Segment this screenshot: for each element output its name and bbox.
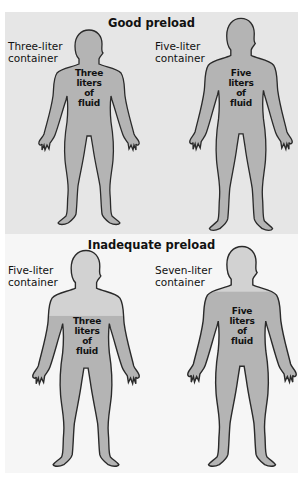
fluid-label-line: Five <box>221 68 261 78</box>
fluid-label-line: Five <box>222 306 262 316</box>
fluid-label-line: liters <box>221 78 261 88</box>
fluid-label-line: liters <box>69 78 109 88</box>
fluid-label: Five liters of fluid <box>221 68 261 108</box>
good-preload-panel: Good preload Three-liter container Three… <box>5 12 298 234</box>
fluid-label-line: of <box>67 336 107 346</box>
fluid-label-line: Three <box>67 316 107 326</box>
fluid-label: Three liters of fluid <box>69 68 109 108</box>
fluid-label-line: Three <box>69 68 109 78</box>
inadequate-preload-panel: Inadequate preload Five-liter container … <box>5 234 298 473</box>
five-liter-body-figure-partially-filled <box>33 246 139 468</box>
fluid-label-line: liters <box>222 316 262 326</box>
fluid-label-line: of <box>221 88 261 98</box>
seven-liter-body-figure-partially-filled <box>188 242 296 468</box>
fluid-label-line: fluid <box>222 336 262 346</box>
fluid-label-line: fluid <box>69 98 109 108</box>
fluid-label-line: fluid <box>221 98 261 108</box>
five-liter-body-figure <box>190 14 292 232</box>
fluid-label-line: fluid <box>67 346 107 356</box>
fluid-label: Three liters of fluid <box>67 316 107 356</box>
fluid-label: Five liters of fluid <box>222 306 262 346</box>
fluid-label-line: of <box>69 88 109 98</box>
fluid-label-line: liters <box>67 326 107 336</box>
three-liter-body-figure <box>39 26 139 226</box>
fluid-label-line: of <box>222 326 262 336</box>
